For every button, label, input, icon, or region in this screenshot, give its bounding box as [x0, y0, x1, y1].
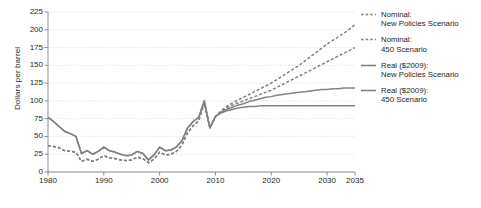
chart-legend: Nominal:New Policies ScenarioNominal:450… [361, 10, 479, 112]
legend-item[interactable]: Nominal:450 Scenario [361, 35, 479, 53]
y-tick-label: 175 [30, 44, 43, 52]
legend-label-line2: New Policies Scenario [381, 70, 459, 79]
legend-label-line1: Real ($2009): [381, 61, 459, 70]
plot-area: 0255075100125150175200225 19801990200020… [48, 12, 355, 172]
solid-line-icon [361, 86, 376, 95]
y-tick-label: 75 [34, 115, 43, 123]
legend-label: Real ($2009):450 Scenario [381, 86, 428, 104]
legend-label-line2: 450 Scenario [381, 95, 428, 104]
series-line [48, 88, 355, 160]
y-tick-label: 25 [34, 150, 43, 158]
y-tick-label: 225 [30, 8, 43, 16]
y-tick-label: 200 [30, 26, 43, 34]
x-tick-label: 2035 [346, 177, 364, 185]
legend-item[interactable]: Nominal:New Policies Scenario [361, 10, 479, 28]
y-tick-label: 125 [30, 79, 43, 87]
legend-label-line1: Nominal: [381, 10, 459, 19]
series-line [48, 25, 355, 163]
legend-label: Real ($2009):New Policies Scenario [381, 61, 459, 79]
x-tick-label: 2010 [207, 177, 225, 185]
y-tick-label: 100 [30, 97, 43, 105]
x-tick-label: 2020 [262, 177, 280, 185]
solid-line-icon [361, 61, 376, 70]
y-tick-label: 0 [39, 168, 43, 176]
dashed-line-icon [361, 10, 376, 19]
y-axis-title: Dollars per barrel [13, 24, 22, 134]
y-tick-label: 150 [30, 61, 43, 69]
oil-price-chart-figure: Dollars per barrel 025507510012515017520… [0, 0, 481, 208]
legend-item[interactable]: Real ($2009):450 Scenario [361, 86, 479, 104]
legend-label: Nominal:450 Scenario [381, 35, 427, 53]
legend-item[interactable]: Real ($2009):New Policies Scenario [361, 61, 479, 79]
legend-label-line1: Nominal: [381, 35, 427, 44]
series-line [48, 101, 355, 160]
legend-label-line1: Real ($2009): [381, 86, 428, 95]
x-tick-label: 1990 [95, 177, 113, 185]
legend-label-line2: New Policies Scenario [381, 19, 459, 28]
legend-label-line2: 450 Scenario [381, 45, 427, 54]
dashed-line-icon [361, 35, 376, 44]
y-tick-label: 50 [34, 132, 43, 140]
x-tick-label: 1980 [39, 177, 57, 185]
x-tick-label: 2000 [151, 177, 169, 185]
legend-label: Nominal:New Policies Scenario [381, 10, 459, 28]
x-tick-label: 2030 [318, 177, 336, 185]
series-layer [48, 12, 355, 172]
